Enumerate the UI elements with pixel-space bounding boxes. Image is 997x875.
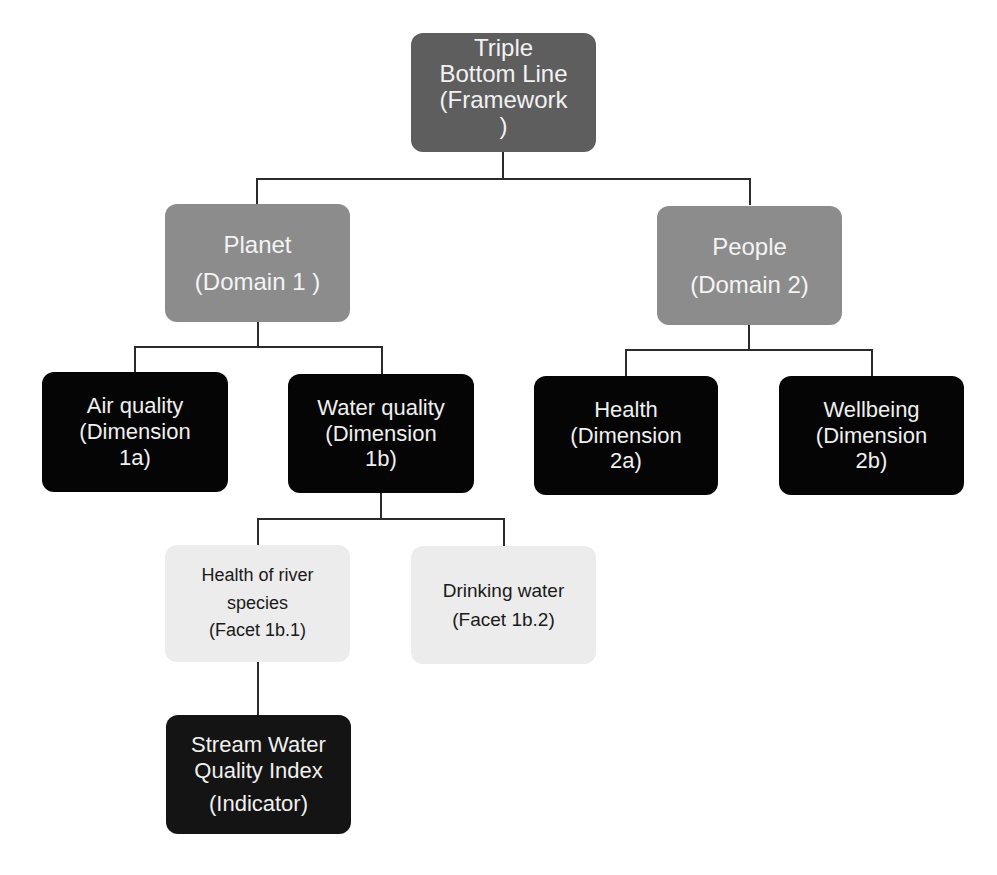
node-line: Triple: [474, 35, 533, 61]
node-line: Planet: [223, 226, 291, 263]
node-line: (Domain 2): [690, 266, 809, 303]
node-line: 1b): [365, 446, 397, 472]
connector-people-bar: [625, 349, 873, 351]
node-facet-drinking-water: Drinking water (Facet 1b.2): [411, 546, 596, 664]
node-indicator-stream-water-quality-index: Stream Water Quality Index (Indicator): [166, 715, 351, 834]
node-line: (Dimension: [79, 419, 190, 445]
node-line: Water quality: [317, 395, 445, 421]
connector-water-bar: [257, 518, 505, 520]
node-line: People: [712, 228, 787, 265]
node-framework-triple-bottom-line: Triple Bottom Line (Framework ): [411, 33, 596, 152]
connector-planet-bar: [134, 346, 383, 348]
node-line: ): [500, 113, 508, 139]
connector-facet-to-indicator: [257, 662, 259, 715]
node-line: Health: [594, 397, 658, 423]
connector-root-bar: [256, 178, 751, 180]
connector-planet-down: [257, 322, 259, 348]
connector-to-health: [625, 349, 627, 376]
node-dimension-air-quality: Air quality (Dimension 1a): [42, 372, 228, 492]
connector-to-air-quality: [134, 346, 136, 372]
connector-to-water-quality: [381, 346, 383, 374]
node-domain-people: People (Domain 2): [657, 206, 842, 325]
node-line: (Facet 1b.2): [452, 605, 554, 634]
node-line: (Dimension: [570, 423, 681, 449]
connector-to-people: [749, 178, 751, 205]
node-line: 2a): [610, 448, 642, 474]
node-line: Drinking water: [443, 576, 564, 605]
node-line: Stream Water: [191, 732, 326, 758]
node-line: species: [227, 590, 288, 618]
connector-people-down: [748, 325, 750, 351]
node-line: Health of river: [201, 562, 313, 590]
node-line: (Indicator): [209, 791, 308, 817]
node-domain-planet: Planet (Domain 1 ): [165, 204, 350, 322]
node-dimension-water-quality: Water quality (Dimension 1b): [288, 374, 474, 493]
node-line: 1a): [119, 445, 151, 471]
node-line: (Facet 1b.1): [209, 617, 306, 645]
node-line: 2b): [856, 448, 888, 474]
node-line: (Dimension: [816, 423, 927, 449]
node-dimension-health: Health (Dimension 2a): [534, 376, 718, 495]
node-facet-health-of-river-species: Health of river species (Facet 1b.1): [165, 545, 350, 662]
connector-root-down: [502, 152, 504, 180]
node-line: (Dimension: [325, 421, 436, 447]
node-line: Bottom Line: [439, 61, 567, 87]
node-dimension-wellbeing: Wellbeing (Dimension 2b): [779, 376, 964, 495]
node-line: Wellbeing: [823, 397, 919, 423]
connector-water-down: [380, 493, 382, 519]
connector-to-wellbeing: [871, 349, 873, 376]
connector-to-facet-river: [257, 518, 259, 545]
connector-to-facet-drinking: [503, 518, 505, 546]
node-line: (Framework: [439, 87, 567, 113]
node-line: Quality Index: [194, 758, 322, 784]
node-line: Air quality: [87, 393, 184, 419]
connector-to-planet: [256, 178, 258, 205]
node-line: (Domain 1 ): [195, 263, 320, 300]
